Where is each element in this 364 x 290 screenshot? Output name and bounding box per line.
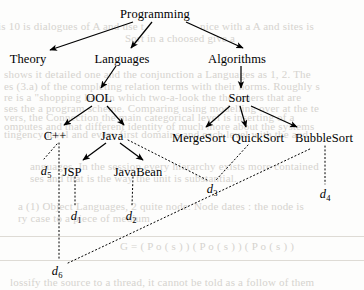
node-theory: Theory bbox=[10, 53, 47, 66]
node-labels: ProgrammingTheoryLanguagesAlgorithmsOOLS… bbox=[0, 0, 364, 290]
data-node-letter: d bbox=[41, 164, 47, 178]
data-node-letter: d bbox=[320, 187, 326, 201]
node-quicksort: QuickSort bbox=[232, 132, 284, 145]
node-jsp: JSP bbox=[62, 166, 81, 179]
data-node-subscript: 6 bbox=[58, 270, 62, 280]
data-node-d3: d3 bbox=[207, 183, 218, 196]
data-node-letter: d bbox=[126, 209, 132, 223]
node-java: Java bbox=[101, 130, 124, 143]
data-node-d4: d4 bbox=[320, 188, 331, 201]
data-node-letter: d bbox=[71, 209, 77, 223]
node-bubblesort: BubbleSort bbox=[295, 132, 353, 145]
node-languages: Languages bbox=[94, 53, 149, 66]
data-node-letter: d bbox=[207, 182, 213, 196]
data-node-subscript: 2 bbox=[132, 215, 136, 225]
node-algorithms: Algorithms bbox=[208, 53, 266, 66]
figure-canvas: is 10 is dialogues of A and use tnice wi… bbox=[0, 0, 364, 290]
data-node-subscript: 4 bbox=[326, 193, 330, 203]
node-mergesort: MergeSort bbox=[172, 132, 226, 145]
data-node-subscript: 5 bbox=[47, 170, 51, 180]
node-programming: Programming bbox=[120, 8, 190, 21]
data-node-letter: d bbox=[52, 264, 58, 278]
data-node-d6: d6 bbox=[52, 265, 63, 278]
node-ool: OOL bbox=[86, 92, 112, 105]
node-cpp: C++ bbox=[44, 130, 67, 143]
data-node-d2: d2 bbox=[126, 210, 137, 223]
data-node-subscript: 1 bbox=[77, 215, 81, 225]
node-sort: Sort bbox=[228, 92, 249, 105]
data-node-d5: d5 bbox=[41, 165, 52, 178]
node-javabean: JavaBean bbox=[114, 166, 163, 179]
data-node-subscript: 3 bbox=[213, 188, 217, 198]
data-node-d1: d1 bbox=[71, 210, 82, 223]
